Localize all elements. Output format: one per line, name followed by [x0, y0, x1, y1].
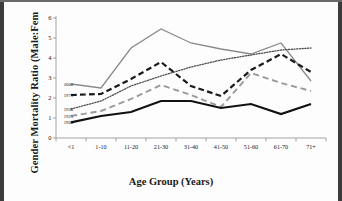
series-line-2000	[71, 29, 311, 88]
x-tick-label: 11-20	[124, 143, 138, 150]
series-line-1975	[71, 54, 311, 96]
y-tick-label: 3	[48, 74, 51, 81]
y-tick-label: 4	[48, 54, 52, 61]
scan-edge-top	[0, 0, 342, 2]
x-tick-label: 41-50	[214, 143, 228, 150]
legend: 20001975195019251900	[64, 82, 74, 125]
y-tick-label: 0	[48, 134, 51, 141]
x-tick-label: 71+	[306, 143, 316, 150]
scan-edge-left	[0, 0, 4, 201]
legend-label-1925: 1925	[64, 114, 74, 119]
x-axis-title: Age Group (Years)	[0, 176, 342, 187]
chart-figure: Gender Mortality Ratio (Male:Fem 0123456…	[0, 0, 342, 201]
series-line-1900	[71, 101, 311, 122]
scan-edge-right	[338, 0, 342, 201]
x-axis	[56, 138, 326, 142]
plot-area: 0123456 20001975195019251900 <11-1011-20…	[38, 14, 330, 160]
y-tick-label: 2	[48, 94, 51, 101]
x-tick-label: 61-70	[274, 143, 288, 150]
line-chart-svg: 0123456 20001975195019251900 <11-1011-20…	[38, 14, 330, 160]
y-tick-label: 5	[48, 34, 51, 41]
legend-label-1975: 1975	[64, 93, 74, 98]
legend-label-2000: 2000	[64, 82, 74, 87]
x-tick-label: <1	[68, 143, 75, 150]
x-tick-label: 21-30	[154, 143, 168, 150]
legend-label-1950: 1950	[64, 107, 74, 112]
x-tick-labels: <11-1011-2021-3031-4041-5051-6061-7071+	[68, 143, 317, 150]
legend-label-1900: 1900	[64, 120, 74, 125]
x-tick-label: 51-60	[244, 143, 258, 150]
x-tick-label: 1-10	[95, 143, 106, 150]
y-axis: 0123456	[48, 14, 56, 141]
x-tick-label: 31-40	[184, 143, 198, 150]
y-tick-label: 6	[48, 14, 52, 21]
y-tick-label: 1	[48, 114, 51, 121]
series-group	[71, 29, 311, 122]
